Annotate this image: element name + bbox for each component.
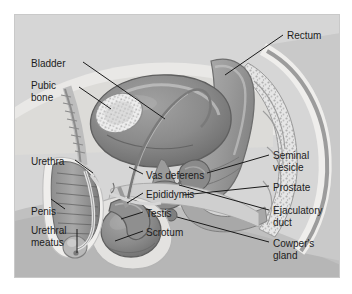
label-epididymis: Epididymis [146,189,194,201]
label-ejaculatory-duct: Ejaculatory duct [273,205,322,228]
label-cowpers-gland: Cowper's gland [273,238,314,261]
label-vas-deferens: Vas deferens [146,170,204,182]
label-bladder: Bladder [31,58,65,70]
label-pubic-bone: Pubic bone [31,80,56,103]
label-rectum: Rectum [287,30,321,42]
label-prostate: Prostate [273,182,310,194]
label-layer: Bladder Pubic bone Urethra Penis Urethra… [15,15,340,278]
label-seminal-vesicle: Seminal vesicle [273,150,309,173]
label-scrotum: Scrotum [146,227,183,239]
label-penis: Penis [31,206,56,218]
label-urethra: Urethra [31,156,64,168]
anatomy-figure: Bladder Pubic bone Urethra Penis Urethra… [14,14,340,278]
label-testis: Testis [146,208,172,220]
label-urethral-meatus: Urethral meatus [31,225,67,248]
